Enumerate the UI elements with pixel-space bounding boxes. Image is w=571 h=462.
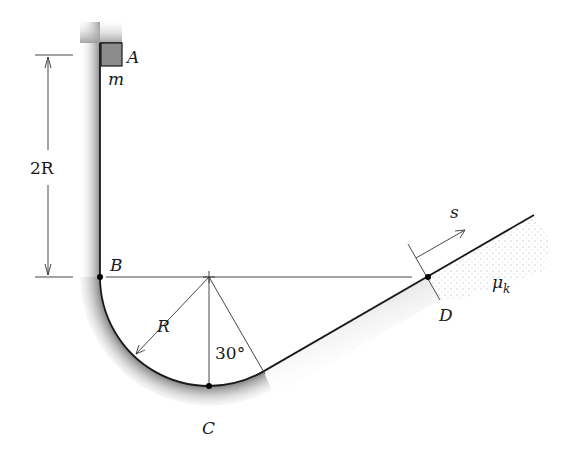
track-diagram: A m 2R B R 30° C D s μk (0, 0, 571, 462)
label-angle: 30° (215, 343, 245, 363)
mu-symbol: μ (492, 272, 503, 292)
label-d: D (438, 305, 453, 325)
point-d-dot (425, 274, 431, 280)
wall-shading (80, 18, 550, 406)
block-a (101, 43, 122, 66)
label-mass: m (108, 69, 124, 89)
label-c: C (202, 418, 215, 438)
point-b-dot (97, 274, 103, 280)
label-2r: 2R (30, 158, 55, 178)
label-s: s (450, 202, 459, 222)
label-r: R (156, 316, 170, 336)
point-c-dot (206, 383, 212, 389)
label-a: A (125, 47, 139, 67)
label-b: B (109, 255, 123, 275)
mu-subscript: k (503, 282, 510, 296)
